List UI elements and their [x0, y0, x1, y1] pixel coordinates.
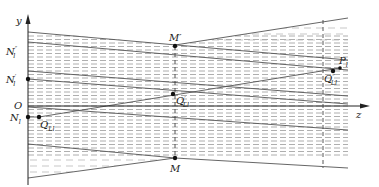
diagram-canvas: y z O N″l N′l Nl QLl Q′Ll Q″Ll Pl M′ M	[0, 0, 379, 187]
point-N-l-prime	[26, 77, 30, 81]
mask-bottom-right	[175, 158, 348, 187]
label-N-l: Nl	[9, 112, 21, 126]
label-y-axis: y	[15, 15, 22, 26]
z-axis	[28, 104, 370, 109]
label-N-l-prime: N′l	[5, 73, 17, 88]
mask-bottom-left	[29, 158, 175, 187]
point-Q-Ll-prime	[171, 92, 175, 96]
dashed-hatch-region-upper	[28, 36, 348, 155]
ray-through-O	[28, 107, 348, 130]
point-N-l	[26, 115, 30, 119]
label-N-l-double-prime: N″l	[5, 45, 18, 60]
ray-lower-boundary	[28, 144, 175, 158]
z-axis-arrow-icon	[360, 104, 370, 109]
optics-diagram: y z O N″l N′l Nl QLl Q′Ll Q″Ll Pl M′ M	[0, 0, 379, 187]
point-M-prime	[173, 44, 177, 48]
label-M-prime: M′	[168, 32, 182, 43]
point-M	[173, 156, 177, 160]
point-P-l	[338, 66, 342, 70]
label-M: M	[169, 163, 181, 174]
label-z-axis: z	[355, 109, 362, 120]
label-origin: O	[14, 100, 22, 111]
label-Q-Ll-prime: Q′Ll	[176, 95, 189, 109]
